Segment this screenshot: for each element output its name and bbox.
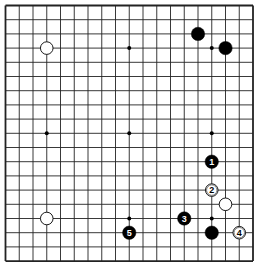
star-point [127, 217, 131, 221]
go-board[interactable]: 12345 [0, 0, 257, 266]
move-number: 1 [209, 157, 214, 167]
star-point [210, 217, 214, 221]
black-stone[interactable] [191, 27, 204, 40]
move-number: 2 [209, 185, 214, 195]
move-number: 4 [237, 228, 242, 238]
black-stone[interactable] [205, 226, 218, 239]
white-stone-4[interactable]: 4 [233, 226, 246, 239]
star-point [127, 46, 131, 50]
star-point [45, 131, 49, 135]
star-point [210, 131, 214, 135]
white-stone[interactable] [40, 42, 53, 55]
star-point [127, 131, 131, 135]
black-stone-5[interactable]: 5 [123, 226, 136, 239]
black-stone-3[interactable]: 3 [178, 212, 191, 225]
move-number: 3 [182, 214, 187, 224]
white-stone[interactable] [219, 198, 232, 211]
black-stone[interactable] [219, 41, 232, 54]
move-number: 5 [127, 228, 132, 238]
white-stone-2[interactable]: 2 [205, 184, 218, 197]
white-stone[interactable] [40, 212, 53, 225]
star-point [210, 46, 214, 50]
black-stone-1[interactable]: 1 [205, 155, 218, 168]
